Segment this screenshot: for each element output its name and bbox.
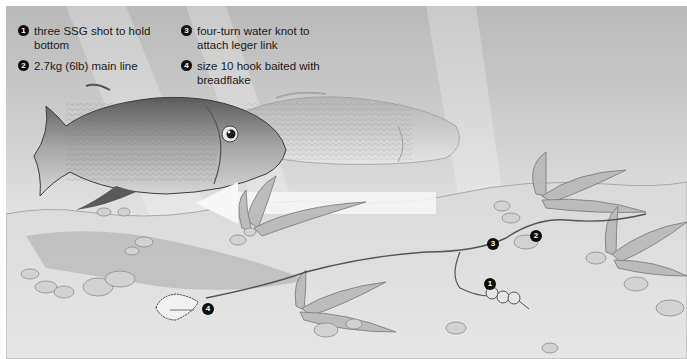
marker-4: 4 [202, 303, 214, 315]
number-badge-1: 1 [18, 25, 29, 36]
legend-item-4: 4 size 10 hook baited with breadflake [181, 59, 331, 87]
legend-item-3: 3 four-turn water knot to attach leger l… [181, 24, 331, 52]
illustration-scene: 1 2 3 4 1 three SSG shot to hold bottom … [6, 6, 687, 359]
marker-1: 1 [484, 278, 496, 290]
legend-item-2: 2 2.7kg (6lb) main line [18, 59, 178, 73]
legend-text-3: four-turn water knot to attach leger lin… [197, 24, 331, 52]
legend: 1 three SSG shot to hold bottom 2 2.7kg … [18, 24, 348, 94]
legend-text-2: 2.7kg (6lb) main line [34, 59, 138, 73]
legend-item-1: 1 three SSG shot to hold bottom [18, 24, 168, 52]
legend-text-4: size 10 hook baited with breadflake [197, 59, 331, 87]
number-badge-4: 4 [181, 60, 192, 71]
number-badge-2: 2 [18, 60, 29, 71]
number-badge-3: 3 [181, 25, 192, 36]
marker-3: 3 [487, 238, 499, 250]
marker-2: 2 [530, 230, 542, 242]
legend-text-1: three SSG shot to hold bottom [34, 24, 168, 52]
